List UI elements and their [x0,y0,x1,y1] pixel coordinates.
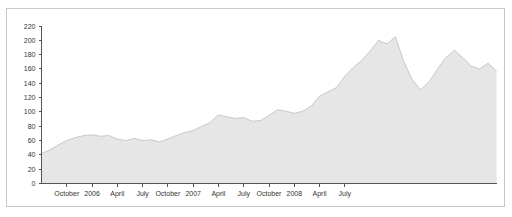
y-tick-label: 180 [24,51,36,58]
x-tick-label: October [257,190,283,197]
chart-area-series [42,37,497,184]
area-fill-path [42,37,497,184]
x-tick-label: April [211,190,225,198]
x-tick-label: 2008 [286,190,302,197]
y-tick-group: 020406080100120140160180200220 [24,23,42,188]
x-tick-label: October [155,190,181,197]
x-tick-label: July [136,190,149,198]
x-tick-label: April [110,190,124,198]
chart-frame: 020406080100120140160180200220 October20… [6,8,505,207]
y-tick-label: 160 [24,65,36,72]
y-tick-label: 40 [28,151,36,158]
x-tick-label: 2007 [185,190,201,197]
y-tick-label: 100 [24,108,36,115]
y-tick-label: 0 [32,180,36,187]
y-tick-label: 220 [24,23,36,30]
area-chart: 020406080100120140160180200220 October20… [7,9,504,206]
y-tick-label: 140 [24,80,36,87]
y-tick-label: 80 [28,123,36,130]
x-tick-group: October2006AprilJulyOctober2007AprilJuly… [54,184,351,198]
x-tick-label: July [339,190,352,198]
y-tick-label: 60 [28,137,36,144]
x-tick-label: July [237,190,250,198]
y-tick-label: 120 [24,94,36,101]
x-tick-label: April [313,190,327,198]
x-tick-label: 2006 [84,190,100,197]
x-tick-label: October [54,190,80,197]
y-tick-label: 200 [24,37,36,44]
y-tick-label: 20 [28,166,36,173]
